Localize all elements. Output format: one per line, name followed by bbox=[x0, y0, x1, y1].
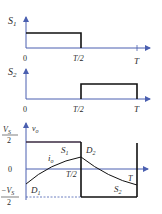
inverter-waveform-diagram: S1 0 T/2 T S2 0 T/2 T VS 2 vo 0 −VS 2 bbox=[0, 0, 162, 214]
region-label-s2: S2 bbox=[114, 184, 122, 195]
vo-zero-label: 0 bbox=[8, 165, 12, 174]
vo-tick-half: T/2 bbox=[66, 170, 77, 179]
region-label-d1: D1 bbox=[30, 185, 41, 196]
s1-tick-half: T/2 bbox=[73, 54, 84, 63]
vo-top-level-num: VS bbox=[3, 125, 11, 135]
s1-ylabel: S1 bbox=[8, 15, 17, 28]
s2-tick-t: T bbox=[134, 104, 140, 114]
vo-bottom-level-den: 2 bbox=[7, 198, 11, 207]
vo-plot: VS 2 vo 0 −VS 2 T/2 T io S1 D2 D1 S2 bbox=[1, 123, 148, 207]
s1-tick-0: 0 bbox=[23, 54, 27, 63]
vo-top-level-den: 2 bbox=[7, 136, 11, 145]
vo-ylabel: vo bbox=[32, 124, 39, 134]
vo-bottom-level-num: −VS bbox=[1, 186, 14, 196]
s1-pulse bbox=[26, 33, 81, 48]
s1-plot: S1 0 T/2 T bbox=[8, 15, 150, 66]
s2-plot: S2 0 T/2 T bbox=[8, 66, 150, 114]
region-label-d2: D2 bbox=[85, 145, 96, 156]
s1-tick-t: T bbox=[134, 56, 140, 66]
s2-tick-0: 0 bbox=[23, 105, 27, 114]
io-label: io bbox=[48, 153, 54, 164]
vo-tick-t: T bbox=[128, 174, 133, 183]
s2-ylabel: S2 bbox=[8, 66, 17, 79]
region-label-s1: S1 bbox=[61, 145, 69, 156]
s2-tick-half: T/2 bbox=[73, 105, 84, 114]
s2-pulse bbox=[81, 84, 137, 99]
